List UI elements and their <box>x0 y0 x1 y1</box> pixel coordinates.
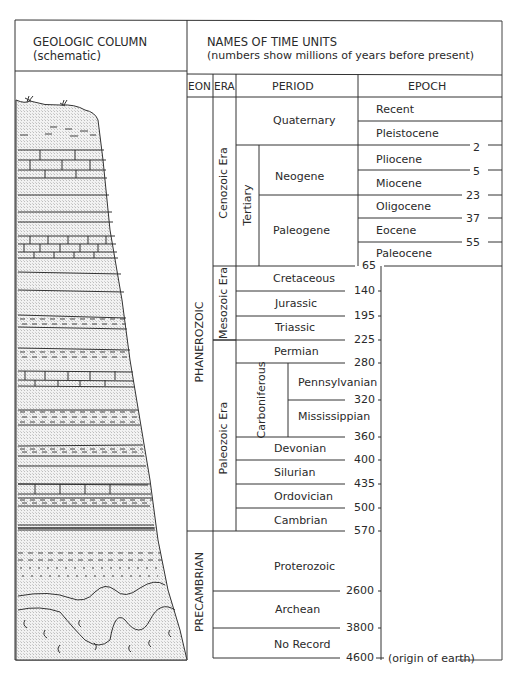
geologic-column-subtitle: (schematic) <box>33 49 101 63</box>
era-mesozoic: Mesozoic Era <box>218 263 230 343</box>
period-devonian: Devonian <box>274 442 326 455</box>
boundary-140: 140 <box>353 285 376 297</box>
diagram-frame <box>0 0 510 679</box>
boundary-570: 570 <box>353 525 376 537</box>
period-no-record: No Record <box>274 638 330 651</box>
geologic-column-title: GEOLOGIC COLUMN <box>33 35 147 49</box>
boundary-2600: 2600 <box>345 585 375 597</box>
column-header-eon: EON <box>188 80 211 93</box>
epoch-oligocene: Oligocene <box>376 200 431 213</box>
boundary-280: 280 <box>353 357 376 369</box>
boundary-2: 2 <box>472 142 481 154</box>
boundary-5: 5 <box>472 166 481 178</box>
boundary-4600: 4600 <box>345 652 375 664</box>
boundary-400: 400 <box>353 454 376 466</box>
epoch-recent: Recent <box>376 103 414 116</box>
period-cambrian: Cambrian <box>274 514 327 527</box>
period-paleogene: Paleogene <box>273 224 330 237</box>
boundary-55: 55 <box>465 237 481 249</box>
boundary-65: 65 <box>361 260 377 272</box>
subperiod-carboniferous: Carboniferous <box>256 360 268 440</box>
boundary-320: 320 <box>353 394 376 406</box>
boundary-500: 500 <box>353 502 376 514</box>
period-pennsylvanian: Pennsylvanian <box>298 376 377 389</box>
origin-of-earth-note: (origin of earth) <box>388 652 475 665</box>
period-archean: Archean <box>275 603 320 616</box>
period-proterozoic: Proterozoic <box>274 560 335 573</box>
column-header-era: ERA <box>214 80 235 93</box>
boundary-195: 195 <box>353 310 376 322</box>
column-header-period: PERIOD <box>272 80 314 93</box>
period-jurassic: Jurassic <box>275 297 317 310</box>
boundary-225: 225 <box>353 334 376 346</box>
column-header-epoch: EPOCH <box>408 80 446 93</box>
period-neogene: Neogene <box>275 170 324 183</box>
period-cretaceous: Cretaceous <box>273 272 335 285</box>
period-permian: Permian <box>274 345 319 358</box>
period-mississippian: Mississippian <box>298 410 370 423</box>
boundary-3800: 3800 <box>345 622 375 634</box>
eon-phanerozoic: PHANEROZOIC <box>194 282 206 402</box>
epoch-pliocene: Pliocene <box>376 153 422 166</box>
era-cenozoic: Cenozoic Era <box>218 143 230 223</box>
period-triassic: Triassic <box>275 321 315 334</box>
period-ordovician: Ordovician <box>274 490 333 503</box>
geologic-column-drawing <box>16 96 187 660</box>
eon-precambrian: PRECAMBRIAN <box>194 542 206 642</box>
period-quaternary: Quaternary <box>273 114 336 127</box>
epoch-pleistocene: Pleistocene <box>376 127 439 140</box>
subperiod-tertiary: Tertiary <box>242 175 254 235</box>
boundary-435: 435 <box>353 478 376 490</box>
period-silurian: Silurian <box>274 466 315 479</box>
time-units-title: NAMES OF TIME UNITS <box>207 35 337 49</box>
era-paleozoic: Paleozoic Era <box>218 398 230 478</box>
boundary-23: 23 <box>465 190 481 202</box>
epoch-miocene: Miocene <box>376 177 422 190</box>
boundary-360: 360 <box>353 431 376 443</box>
epoch-eocene: Eocene <box>376 224 416 237</box>
boundary-37: 37 <box>465 213 481 225</box>
time-units-subtitle: (numbers show millions of years before p… <box>207 49 474 63</box>
epoch-paleocene: Paleocene <box>376 247 432 260</box>
